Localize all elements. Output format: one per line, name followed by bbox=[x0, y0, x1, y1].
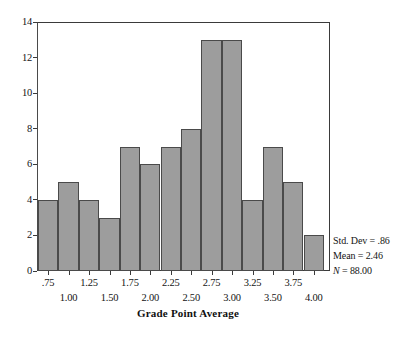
x-label-2p50: 2.50 bbox=[182, 292, 200, 304]
x-label-2p25: 2.25 bbox=[162, 277, 180, 289]
y-tick-2: 2 bbox=[27, 229, 37, 241]
bar-series bbox=[38, 22, 330, 271]
y-axis: 14 12 10 8 6 4 2 0 bbox=[0, 14, 37, 279]
stats-annotation: Std. Dev = .86 Mean = 2.46 N = 88.00 bbox=[333, 233, 411, 278]
y-tick-14: 14 bbox=[22, 16, 37, 28]
bar-4 bbox=[120, 147, 140, 272]
x-label-4p00: 4.00 bbox=[305, 292, 323, 304]
y-tick-6: 6 bbox=[27, 158, 37, 170]
bar-11 bbox=[263, 147, 283, 272]
std-dev-text: Std. Dev = .86 bbox=[333, 233, 411, 248]
x-label-3p00: 3.00 bbox=[223, 292, 241, 304]
y-tick-mark bbox=[33, 164, 37, 165]
x-label-1p00: 1.00 bbox=[60, 292, 78, 304]
x-label-2p00: 2.00 bbox=[142, 292, 160, 304]
bar-0 bbox=[38, 200, 58, 271]
bar-3 bbox=[99, 218, 119, 271]
y-tick-8: 8 bbox=[27, 123, 37, 135]
n-text: N = 88.00 bbox=[333, 263, 411, 278]
y-tick-mark bbox=[33, 93, 37, 94]
y-tick-mark bbox=[33, 128, 37, 129]
y-tick-mark bbox=[33, 57, 37, 58]
bar-10 bbox=[242, 200, 262, 271]
bar-9 bbox=[222, 40, 242, 271]
x-label-3p75: 3.75 bbox=[285, 277, 303, 289]
x-label-0p75: .75 bbox=[42, 277, 55, 289]
x-label-1p25: 1.25 bbox=[80, 277, 98, 289]
y-tick-12: 12 bbox=[22, 52, 37, 64]
x-label-1p75: 1.75 bbox=[121, 277, 139, 289]
bar-8 bbox=[201, 40, 221, 271]
x-axis-title: Grade Point Average bbox=[0, 307, 376, 319]
x-label-3p50: 3.50 bbox=[264, 292, 282, 304]
bar-2 bbox=[79, 200, 99, 271]
bar-13 bbox=[304, 235, 324, 271]
bar-1 bbox=[58, 182, 78, 271]
y-tick-4: 4 bbox=[27, 194, 37, 206]
bar-12 bbox=[283, 182, 303, 271]
bar-5 bbox=[140, 164, 160, 271]
histogram-figure: 14 12 10 8 6 4 2 0 bbox=[0, 0, 411, 337]
x-label-1p50: 1.50 bbox=[101, 292, 119, 304]
y-tick-mark bbox=[33, 199, 37, 200]
mean-text: Mean = 2.46 bbox=[333, 248, 411, 263]
y-tick-mark bbox=[33, 22, 37, 23]
n-symbol: N bbox=[333, 265, 340, 276]
n-value: = 88.00 bbox=[340, 265, 372, 276]
bar-6 bbox=[161, 147, 181, 272]
x-label-3p25: 3.25 bbox=[244, 277, 262, 289]
bar-7 bbox=[181, 129, 201, 271]
y-tick-mark bbox=[33, 235, 37, 236]
y-tick-10: 10 bbox=[22, 87, 37, 99]
x-label-2p75: 2.75 bbox=[203, 277, 221, 289]
